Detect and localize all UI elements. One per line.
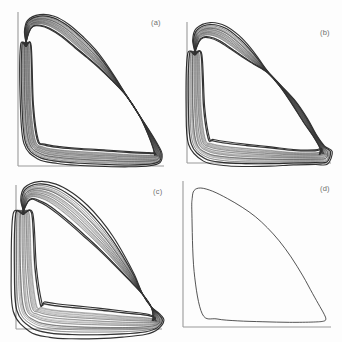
panel-b-plot [171,0,342,171]
panel-a-plot [0,0,171,171]
trajectory-curve [23,195,156,321]
trajectory-curve [26,21,158,158]
panel-d-plot [171,171,342,342]
trajectory-curve [195,31,325,156]
trajectory-curve [23,17,161,164]
trajectory-curve [190,26,330,162]
trajectory-curve [195,32,325,157]
panel-c-plot [0,171,171,342]
trajectory-curve [23,198,155,320]
trajectory-curve [195,32,325,155]
panel-b [171,0,342,171]
trajectory-curve [24,19,159,162]
trajectory-curve [195,31,326,157]
trajectory-curve [26,21,158,158]
trajectory-curve [24,19,159,161]
trajectory-curve [195,35,323,154]
trajectory-curve [195,37,322,154]
trajectory-curve [26,22,157,157]
figure-panel-grid: (a) (b) (c) (d) [0,0,342,342]
trajectory-curve [195,34,324,154]
trajectory-curve [195,30,326,157]
trajectory-curve [25,20,159,160]
trajectory-curve [26,23,157,157]
trajectory-curve [26,21,158,160]
trajectory-curve [26,24,156,155]
panel-a [0,0,171,171]
trajectory-curve [194,29,327,158]
panel-b-trajectory-bundle [186,23,332,167]
panel-d-axes [183,181,331,327]
trajectory-curve [21,16,161,165]
trajectory-curve [188,25,330,164]
panel-a-trajectory-bundle [20,14,162,166]
trajectory-curve [190,26,330,162]
panel-b-label: (b) [320,29,330,37]
trajectory-curve [195,35,323,155]
trajectory-curve [26,22,158,158]
panel-d-limit-cycle [192,188,326,322]
trajectory-curve [23,198,155,320]
limit-cycle-curve [192,188,326,322]
trajectory-curve [194,30,326,158]
panel-c-label: (c) [153,188,162,196]
trajectory-curve [24,19,159,161]
trajectory-curve [26,20,159,159]
trajectory-curve [195,34,324,155]
panel-c-trajectory-bundle [11,181,164,338]
panel-d-label: (d) [320,185,330,193]
trajectory-curve [195,37,322,155]
panel-d [171,171,342,342]
trajectory-curve [26,24,157,156]
trajectory-curve [195,33,325,156]
panel-c [0,171,171,342]
trajectory-curve [195,33,324,155]
trajectory-curve [23,18,160,163]
panel-b-axes [187,22,331,163]
trajectory-curve [24,18,160,162]
panel-a-label: (a) [151,19,161,27]
trajectory-curve [23,17,161,164]
trajectory-curve [26,22,157,156]
trajectory-curve [25,20,159,161]
trajectory-curve [21,16,161,165]
trajectory-curve [26,23,157,156]
trajectory-curve [195,37,322,155]
